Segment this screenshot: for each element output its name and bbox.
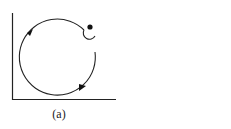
state-dot bbox=[87, 24, 92, 29]
axes bbox=[12, 13, 116, 100]
arrow-lower-right bbox=[79, 84, 86, 91]
diagram bbox=[0, 0, 231, 129]
loop bbox=[19, 19, 95, 95]
notch-arc bbox=[83, 30, 95, 39]
figure-caption: (a) bbox=[44, 107, 74, 122]
